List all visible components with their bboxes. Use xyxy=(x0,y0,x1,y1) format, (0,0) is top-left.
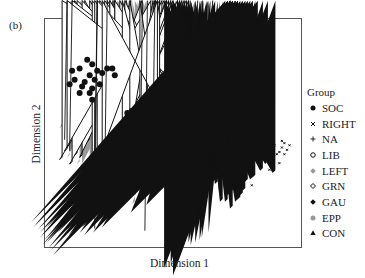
x-axis-label: Dimension 1 xyxy=(150,257,209,269)
legend-label: SOC xyxy=(322,102,343,114)
filled-circle-icon xyxy=(307,102,319,114)
plus-icon xyxy=(307,133,319,145)
filled-diamond-icon xyxy=(307,196,319,208)
legend-label: LEFT xyxy=(322,165,348,177)
legend-item-con: CON xyxy=(307,226,356,242)
legend-item-left: LEFT xyxy=(307,163,356,179)
legend-label: CON xyxy=(322,227,345,239)
gray-diamond-icon xyxy=(307,165,319,177)
legend: Group SOC RIGHT NA LIB LEFT GRN GAU EPP … xyxy=(307,86,356,241)
legend-item-epp: EPP xyxy=(307,210,356,226)
legend-item-gau: GAU xyxy=(307,194,356,210)
filled-triangle-icon xyxy=(307,227,319,239)
legend-item-right: RIGHT xyxy=(307,116,356,132)
x-mark-icon xyxy=(307,118,319,130)
y-axis-label: Dimension 2 xyxy=(30,104,42,163)
legend-label: GAU xyxy=(322,196,346,208)
legend-label: RIGHT xyxy=(322,118,356,130)
legend-item-na: NA xyxy=(307,131,356,147)
legend-label: LIB xyxy=(322,149,340,161)
legend-title: Group xyxy=(307,86,356,98)
open-circle-icon xyxy=(307,149,319,161)
gray-circle-icon xyxy=(307,212,319,224)
legend-item-grn: GRN xyxy=(307,178,356,194)
legend-item-lib: LIB xyxy=(307,147,356,163)
legend-label: GRN xyxy=(322,180,345,192)
open-diamond-icon xyxy=(307,180,319,192)
legend-label: EPP xyxy=(322,212,341,224)
legend-item-soc: SOC xyxy=(307,100,356,116)
legend-label: NA xyxy=(322,133,338,145)
